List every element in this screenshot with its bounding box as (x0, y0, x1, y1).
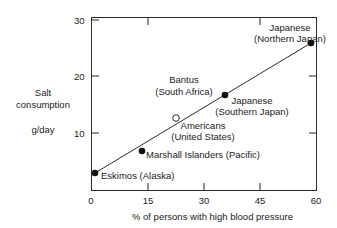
label-japanese-south-line1: Japanese (212, 95, 292, 106)
point-marshall (139, 148, 146, 155)
y-tick-label-30: 30 (74, 15, 85, 26)
label-americans-line1: Americans (163, 120, 243, 131)
label-marshall: Marshall Islanders (Pacific) (146, 149, 260, 160)
y-axis-title-line3: g/day (12, 124, 74, 135)
label-americans-line2: (United States) (163, 131, 243, 142)
x-tick-label-30: 30 (195, 195, 213, 206)
label-eskimos: Eskimos (Alaska) (101, 170, 174, 181)
point-eskimos (92, 170, 99, 177)
y-tick-label-10: 10 (74, 128, 85, 139)
y-axis-title-line1: Salt (12, 87, 74, 98)
x-tick-label-15: 15 (139, 195, 157, 206)
x-tick-label-0: 0 (82, 195, 100, 206)
x-tick-label-45: 45 (251, 195, 269, 206)
label-japanese-south-line2: (Southern Japan) (212, 106, 292, 117)
y-axis-title-line2: consumption (12, 99, 74, 110)
x-axis-title: % of persons with high blood pressure (100, 211, 325, 222)
label-bantus-line1: Bantus (144, 74, 224, 85)
y-tick-label-20: 20 (74, 71, 85, 82)
label-japanese-north-line2: (Northern Japan) (250, 33, 330, 44)
x-tick-label-60: 60 (307, 195, 325, 206)
label-japanese-north-line1: Japanese (250, 22, 330, 33)
